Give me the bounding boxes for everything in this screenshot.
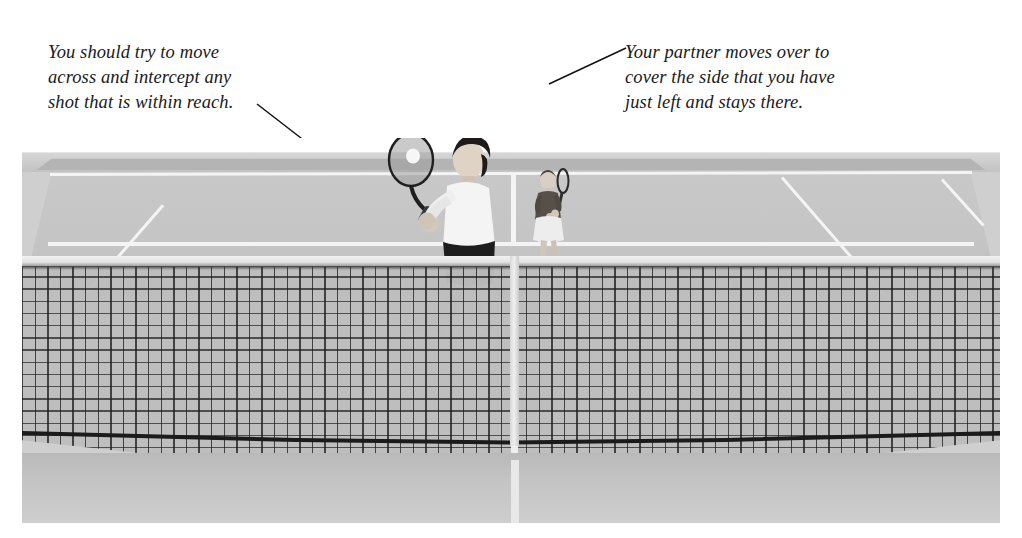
tennis-court-photograph bbox=[22, 138, 1000, 523]
figure-canvas: You should try to move across and interc… bbox=[0, 0, 1022, 538]
near-court-center-mark bbox=[511, 460, 519, 523]
caption-right: Your partner moves over to cover the sid… bbox=[625, 40, 890, 115]
leader-line-right bbox=[546, 45, 628, 87]
tennis-ball bbox=[406, 149, 420, 164]
caption-left: You should try to move across and interc… bbox=[48, 40, 298, 115]
net-center-strap bbox=[510, 256, 519, 446]
